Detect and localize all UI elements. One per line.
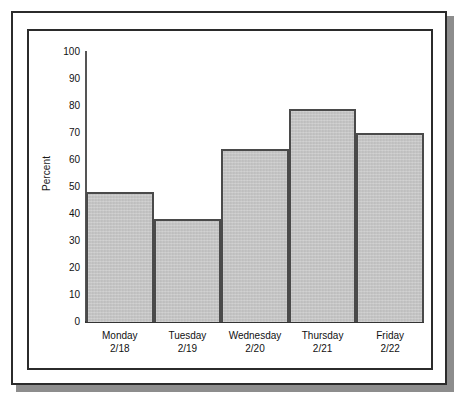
y-axis-tick-label: 80: [52, 101, 80, 111]
bar[interactable]: [289, 109, 357, 322]
bar[interactable]: [356, 133, 424, 322]
x-axis-category-date: 2/21: [289, 342, 357, 355]
y-axis-tick-label: 60: [52, 155, 80, 165]
y-axis-tick-label: 50: [52, 182, 80, 192]
y-axis-tick-label: 10: [52, 290, 80, 300]
x-axis-category-date: 2/19: [154, 342, 222, 355]
x-axis-category-name: Monday: [86, 329, 154, 342]
plot-area: [86, 52, 424, 322]
figure-root: Percent 1009080706050403020100 Monday2/1…: [0, 0, 465, 402]
bar-cell: [154, 52, 222, 322]
x-axis-category-label: Tuesday2/19: [154, 329, 222, 355]
y-axis-tick-label: 30: [52, 236, 80, 246]
y-axis-tick-label: 20: [52, 263, 80, 273]
x-axis-category-labels: Monday2/18Tuesday2/19Wednesday2/20Thursd…: [86, 329, 424, 355]
y-axis-tick-label: 90: [52, 74, 80, 84]
bar-chart: Percent 1009080706050403020100 Monday2/1…: [0, 0, 465, 402]
x-axis-category-label: Monday2/18: [86, 329, 154, 355]
bar[interactable]: [221, 149, 289, 322]
x-axis-category-label: Friday2/22: [356, 329, 424, 355]
bar-cell: [289, 52, 357, 322]
bar-cell: [221, 52, 289, 322]
bar-cell: [86, 52, 154, 322]
y-axis-tick-label: 70: [52, 128, 80, 138]
bars-layer: [86, 52, 424, 322]
x-axis-category-label: Thursday2/21: [289, 329, 357, 355]
x-axis-category-date: 2/22: [356, 342, 424, 355]
bar[interactable]: [154, 219, 222, 322]
y-axis-tick-label: 100: [52, 47, 80, 57]
x-axis-category-name: Wednesday: [221, 329, 289, 342]
bar[interactable]: [86, 192, 154, 322]
x-axis-category-date: 2/18: [86, 342, 154, 355]
bar-cell: [356, 52, 424, 322]
x-axis-category-label: Wednesday2/20: [221, 329, 289, 355]
x-axis-category-name: Tuesday: [154, 329, 222, 342]
y-axis-tick-label: 0: [52, 317, 80, 327]
x-axis-category-name: Friday: [356, 329, 424, 342]
x-axis-category-name: Thursday: [289, 329, 357, 342]
y-axis-tick-label: 40: [52, 209, 80, 219]
x-axis-category-date: 2/20: [221, 342, 289, 355]
y-axis-title: Percent: [41, 124, 52, 224]
